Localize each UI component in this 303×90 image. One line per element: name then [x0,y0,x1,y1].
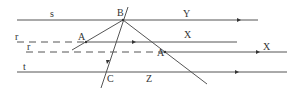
line-bc [101,7,128,88]
arrow-s [237,18,241,22]
ray-diagram: s B Y r A X r A X t C Z [0,0,303,90]
label-x-mid: X [184,29,192,40]
label-y: Y [183,8,190,19]
arrow-t [235,70,239,74]
label-x-right: X [263,41,271,52]
label-s: s [50,8,54,19]
label-r-top: r [15,31,19,42]
arrow-r-top [132,40,136,44]
label-t: t [23,61,26,72]
label-z: Z [146,73,152,84]
label-a-left: A [78,31,86,42]
arrow-x-right [256,50,260,54]
label-b: B [117,7,124,18]
point-b [122,19,124,21]
label-c: C [107,73,114,84]
label-r-lower: r [27,41,31,52]
label-a-right: A [157,47,165,58]
